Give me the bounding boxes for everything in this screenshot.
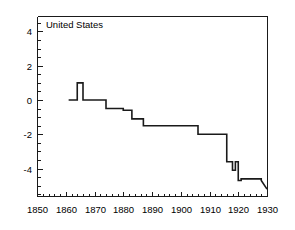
line-chart: 185018601870188018901900191019201930420-…	[0, 0, 295, 230]
y-tick-label: -2	[24, 129, 32, 140]
series-line	[69, 83, 267, 189]
y-tick-label: 0	[27, 95, 32, 106]
chart-tick-labels: 185018601870188018901900191019201930420-…	[24, 26, 279, 215]
chart-series	[69, 83, 267, 189]
chart-container: 185018601870188018901900191019201930420-…	[0, 0, 295, 230]
x-tick-label: 1910	[200, 204, 221, 215]
chart-title: United States	[46, 19, 103, 30]
x-tick-label: 1880	[113, 204, 134, 215]
x-tick-label: 1860	[56, 204, 77, 215]
x-tick-label: 1850	[27, 204, 48, 215]
x-tick-label: 1890	[142, 204, 163, 215]
y-tick-label: -4	[24, 164, 32, 175]
x-tick-label: 1920	[228, 204, 249, 215]
x-tick-label: 1900	[171, 204, 192, 215]
y-tick-label: 4	[27, 26, 32, 37]
x-tick-label: 1870	[85, 204, 106, 215]
x-tick-label: 1930	[257, 204, 278, 215]
y-tick-label: 2	[27, 61, 32, 72]
